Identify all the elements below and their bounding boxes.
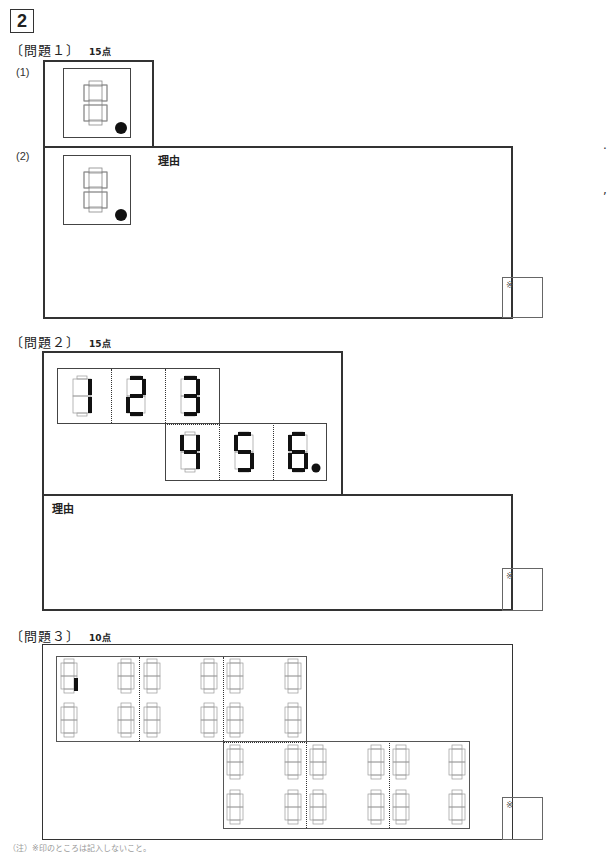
- score-mark: ※: [506, 800, 514, 810]
- q3-upper-row-2: [61, 703, 301, 737]
- q3-digit-grid: [0, 0, 616, 854]
- footer-note: （注）※印のところは記入しないこと。: [8, 842, 151, 853]
- q3-score-box: ※: [502, 797, 543, 840]
- q3-lower-row-2: [227, 790, 465, 824]
- q3-lower-row-1: [227, 745, 465, 779]
- q3-upper-row-1: [61, 659, 301, 693]
- lit-segment-icon: [74, 678, 78, 691]
